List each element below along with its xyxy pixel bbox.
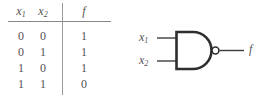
table-row: 1 xyxy=(15,62,27,74)
header-x1-sub: 1 xyxy=(22,10,26,19)
table-row: 1 xyxy=(15,78,27,90)
table-column-divider xyxy=(62,3,63,95)
table-row: 1 xyxy=(78,62,90,74)
table-row: 1 xyxy=(37,78,49,90)
inversion-bubble-icon xyxy=(212,47,219,54)
table-header-x2: x2 xyxy=(35,5,51,17)
table-header-f: f xyxy=(79,5,89,17)
and-gate-body xyxy=(177,32,212,69)
nand-gate-icon xyxy=(131,0,263,99)
table-row: 1 xyxy=(78,46,90,58)
circuit-diagram: x1 x2 f xyxy=(131,0,263,99)
table-row: 0 xyxy=(37,30,49,42)
header-x2-base: x xyxy=(38,4,43,18)
table-row: 0 xyxy=(15,30,27,42)
table-row: 1 xyxy=(78,30,90,42)
header-x2-sub: 2 xyxy=(44,10,48,19)
table-row: 1 xyxy=(37,46,49,58)
truth-table: x1 x2 f 0 0 1 0 1 1 1 0 1 1 1 0 xyxy=(0,0,120,99)
table-row: 0 xyxy=(37,62,49,74)
table-header-x1: x1 xyxy=(13,5,29,17)
table-row: 0 xyxy=(78,78,90,90)
table-header-rule xyxy=(8,21,111,22)
header-x1-base: x xyxy=(16,4,21,18)
table-row: 0 xyxy=(15,46,27,58)
nand-gate-figure: x1 x2 f 0 0 1 0 1 1 1 0 1 1 1 0 x1 x2 f xyxy=(0,0,263,99)
